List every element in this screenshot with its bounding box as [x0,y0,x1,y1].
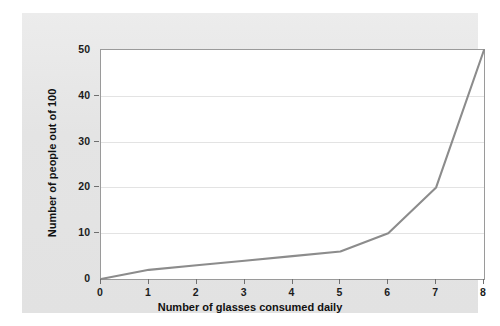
x-tick-label: 8 [480,286,486,298]
y-tick-mark [94,95,99,96]
x-tick-label: 2 [193,286,199,298]
x-axis-label: Number of glasses consumed daily [22,301,478,313]
x-tick-mark [148,279,149,284]
x-tick-label: 3 [241,286,247,298]
y-tick-label: 30 [62,135,90,147]
chart-screenshot: 012345678 01020304050 Number of glasses … [0,0,500,326]
x-tick-label: 1 [145,286,151,298]
series-polyline [101,50,484,279]
x-tick-label: 6 [384,286,390,298]
y-tick-label: 10 [62,226,90,238]
x-tick-mark [435,279,436,284]
y-tick-label: 20 [62,180,90,192]
y-axis-label: Number of people out of 100 [46,89,58,238]
x-tick-label: 0 [97,286,103,298]
y-tick-mark [94,232,99,233]
plot-area [100,49,485,280]
x-tick-mark [483,279,484,284]
y-tick-label: 0 [62,272,90,284]
x-tick-label: 4 [289,286,295,298]
y-tick-label: 50 [62,43,90,55]
x-tick-label: 7 [432,286,438,298]
x-tick-label: 5 [336,286,342,298]
x-tick-mark [387,279,388,284]
y-tick-mark [94,141,99,142]
x-tick-mark [196,279,197,284]
x-tick-mark [292,279,293,284]
figure-panel: 012345678 01020304050 Number of glasses … [22,13,478,313]
data-series-line [101,50,484,279]
y-tick-label: 40 [62,89,90,101]
x-tick-mark [100,279,101,284]
x-tick-mark [244,279,245,284]
x-tick-mark [339,279,340,284]
y-tick-mark [94,186,99,187]
